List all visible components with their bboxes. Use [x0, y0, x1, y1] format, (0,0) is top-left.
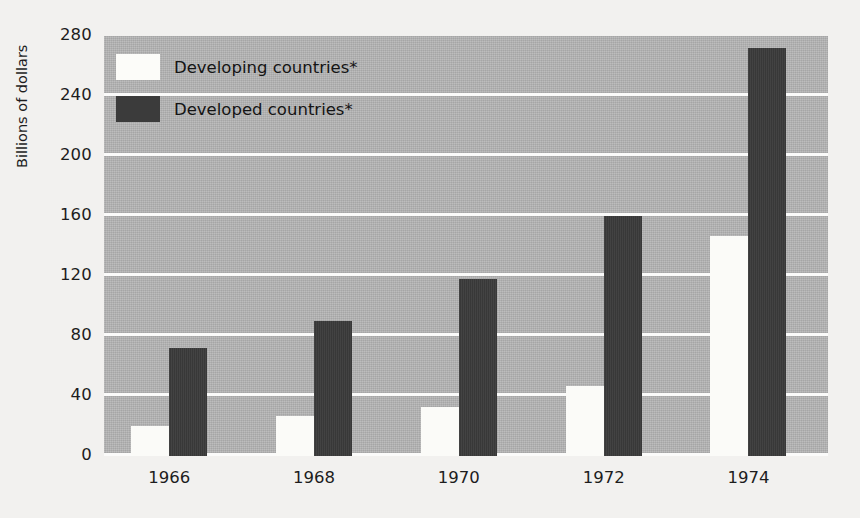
bar-1970-developing	[421, 407, 459, 457]
x-tick-label-1968: 1968	[269, 468, 359, 487]
y-tick-label: 40	[40, 385, 92, 404]
bar-1972-developing	[566, 386, 604, 457]
x-tick-label-1966: 1966	[124, 468, 214, 487]
y-tick-label: 0	[40, 445, 92, 464]
y-tick-label: 280	[40, 25, 92, 44]
x-tick-label-1970: 1970	[414, 468, 504, 487]
y-tick-label: 80	[40, 325, 92, 344]
bar-1966-developing	[131, 426, 169, 456]
y-tick-label: 160	[40, 205, 92, 224]
legend-swatch-developed	[116, 96, 160, 122]
y-tick-label: 120	[40, 265, 92, 284]
bar-1968-developing	[276, 416, 314, 457]
x-tick-label-1972: 1972	[559, 468, 649, 487]
gridline-160	[104, 213, 828, 216]
legend-item: Developing countries*	[116, 50, 358, 84]
legend-label: Developed countries*	[174, 100, 353, 119]
bar-1968-developed	[314, 321, 352, 456]
bar-1972-developed	[604, 216, 642, 456]
y-tick-label: 240	[40, 85, 92, 104]
y-axis-label: Billions of dollars	[14, 0, 30, 168]
bar-1974-developing	[710, 236, 748, 457]
bar-chart-figure: 04080120160200240280 Billions of dollars…	[0, 0, 860, 518]
gridline-200	[104, 153, 828, 156]
chart-legend: Developing countries*Developed countries…	[116, 50, 358, 134]
x-tick-label-1974: 1974	[703, 468, 793, 487]
legend-swatch-developing	[116, 54, 160, 80]
legend-label: Developing countries*	[174, 58, 358, 77]
y-tick-label: 200	[40, 145, 92, 164]
bar-1970-developed	[459, 279, 497, 456]
legend-item: Developed countries*	[116, 92, 358, 126]
bar-1974-developed	[748, 48, 786, 456]
bar-1966-developed	[169, 348, 207, 456]
